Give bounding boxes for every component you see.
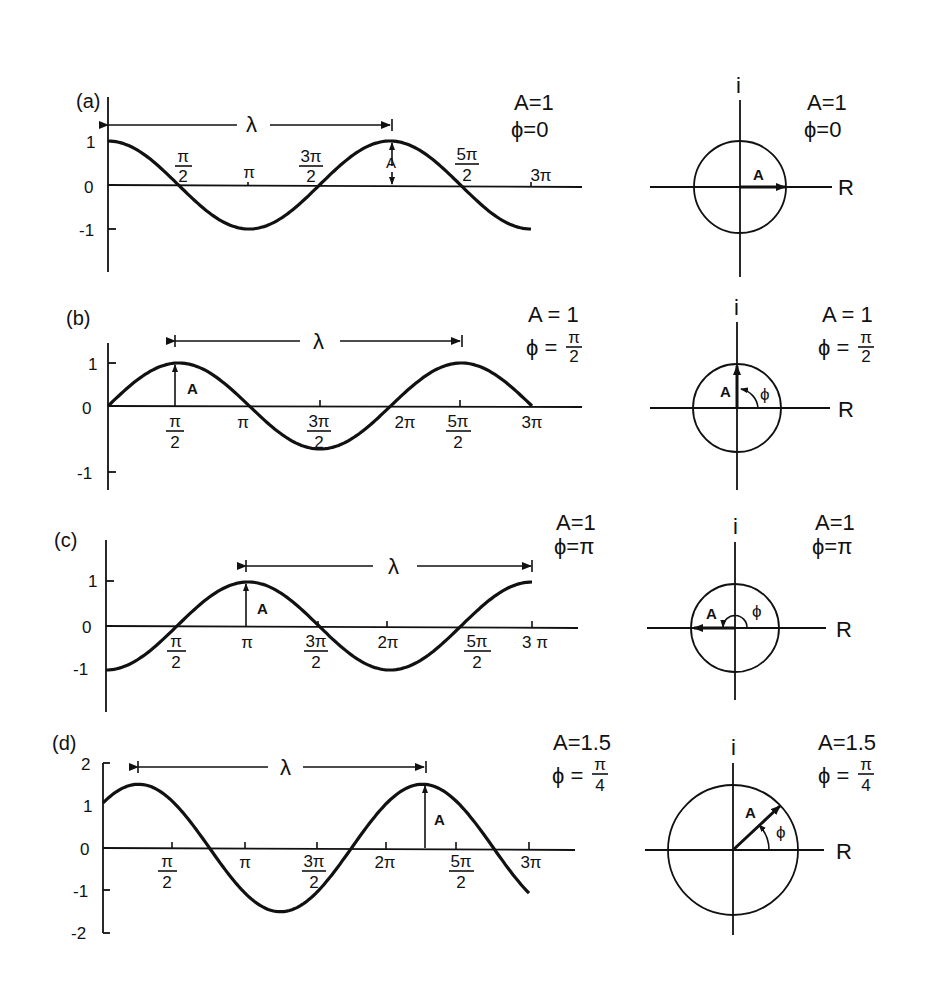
x-tick-label: 2π	[377, 633, 398, 652]
svg-text:π: π	[177, 147, 189, 166]
x-tick-label: 3π	[520, 853, 541, 872]
wave-plot: 1 0 -1 π 2 π 3π 2 2π 5π 2 3 π	[73, 510, 596, 712]
phase-value: ϕ=0	[511, 117, 548, 142]
x-tick-label: 3π 2	[299, 147, 323, 186]
phasor-diagram: A ϕ R i A=1.5 ϕ = π 4	[645, 730, 876, 935]
wavelength-symbol: λ	[246, 112, 257, 137]
amplitude-marker: A	[257, 600, 268, 617]
y-tick-label: 1	[86, 133, 95, 152]
y-tick-label: 0	[84, 178, 93, 197]
svg-text:3π: 3π	[305, 632, 326, 651]
real-axis-label: R	[836, 617, 852, 642]
y-tick-label: 0	[82, 399, 91, 418]
imaginary-axis-label: i	[731, 735, 736, 760]
wave-phasor-figure: (a) 1 0 -1 π 2 π 3π 2 5π 2	[0, 0, 933, 995]
panel-a: (a) 1 0 -1 π 2 π 3π 2 5π 2	[76, 73, 854, 277]
real-axis-label: R	[838, 397, 854, 422]
svg-text:π: π	[860, 328, 872, 347]
phase-angle-arc	[741, 389, 758, 408]
x-tick-label: 5π 2	[464, 632, 491, 672]
y-tick-label: 1	[88, 355, 97, 374]
phasor-amplitude: A = 1	[822, 302, 873, 327]
real-axis-label: R	[838, 175, 854, 200]
svg-text:2: 2	[456, 873, 465, 892]
svg-text:π: π	[860, 755, 872, 774]
svg-text:π: π	[568, 328, 580, 347]
x-tick-label: 3π 2	[307, 412, 331, 452]
phasor-vector-label: A	[753, 166, 764, 183]
x-tick-label: π 2	[158, 852, 177, 892]
svg-text:2: 2	[861, 347, 870, 366]
phasor-vector-label: A	[745, 804, 756, 821]
svg-text:2: 2	[162, 873, 171, 892]
svg-text:5π: 5π	[447, 412, 468, 431]
phase-value: ϕ = π 4	[552, 755, 608, 795]
svg-text:5π: 5π	[466, 632, 487, 651]
svg-text:2: 2	[462, 166, 471, 185]
panel-label: (d)	[52, 732, 76, 754]
phasor-diagram: A ϕ R i A = 1 ϕ = π 2	[650, 295, 874, 490]
phase-value: ϕ=π	[554, 534, 594, 559]
amplitude-value: A=1	[556, 510, 596, 535]
x-tick-label: π 2	[175, 147, 192, 186]
x-tick-label: π 2	[166, 412, 184, 452]
panel-label: (a)	[76, 90, 100, 112]
x-tick-label: π	[239, 853, 251, 872]
imaginary-axis-label: i	[734, 295, 739, 320]
phase-angle-arc	[759, 825, 769, 850]
y-tick-label: 0	[80, 840, 89, 859]
phasor-phase: ϕ = π 2	[818, 328, 874, 366]
svg-text:π: π	[161, 852, 173, 871]
y-tick-label: -1	[79, 221, 94, 240]
panel-d: (d) 2 1 0 -1 -2 π 2 π 3π	[52, 730, 876, 943]
x-tick-label: 2π	[394, 413, 415, 432]
x-tick-label: 5π 2	[446, 412, 471, 452]
wavelength-symbol: λ	[388, 554, 399, 579]
svg-text:ϕ =: ϕ =	[552, 763, 583, 788]
svg-text:5π: 5π	[456, 145, 477, 164]
svg-text:3π: 3π	[300, 147, 321, 166]
wavelength-symbol: λ	[280, 755, 291, 780]
y-tick-label: -1	[73, 660, 88, 679]
x-axis	[108, 406, 582, 407]
phasor-amplitude: A=1.5	[818, 730, 876, 755]
phasor-amplitude: A=1	[815, 510, 855, 535]
svg-text:2: 2	[306, 167, 315, 186]
amplitude-marker: A	[434, 811, 445, 828]
panel-label: (b)	[66, 307, 90, 329]
wave-plot: 2 1 0 -1 -2 π 2 π 3π 2 2π 5π	[71, 730, 611, 943]
x-tick-label: 3π	[530, 166, 551, 185]
x-tick-label: 3π 2	[304, 632, 328, 672]
svg-text:π: π	[169, 412, 181, 431]
wave-plot: 1 0 -1 π 2 π 3π 2 5π 2 3π	[79, 90, 582, 272]
imaginary-axis-label: i	[736, 73, 741, 98]
svg-text:3π: 3π	[303, 852, 324, 871]
svg-text:2: 2	[311, 653, 320, 672]
x-tick-label: π	[241, 633, 253, 652]
wave-plot: 1 0 -1 π 2 π 3π 2 2π 5π 2 3π	[77, 302, 582, 490]
y-tick-label: 1	[88, 572, 97, 591]
y-tick-label: -1	[77, 464, 92, 483]
svg-text:π: π	[594, 755, 606, 774]
phasor-amplitude: A=1	[807, 90, 847, 115]
x-tick-label: 5π 2	[449, 852, 474, 892]
panel-b: (b) 1 0 -1 π 2 π 3π 2 2π 5π	[66, 295, 874, 490]
x-tick-label: 2π	[374, 853, 395, 872]
svg-text:2: 2	[171, 653, 180, 672]
x-tick-label: 3 π	[522, 633, 548, 652]
amplitude-marker: A	[386, 154, 396, 171]
amplitude-value: A=1.5	[553, 730, 611, 755]
svg-text:2: 2	[170, 433, 179, 452]
y-tick-label: 0	[82, 618, 91, 637]
x-axis	[103, 848, 575, 850]
svg-text:π: π	[170, 632, 182, 651]
x-tick-label: π 2	[167, 632, 186, 672]
phase-angle-label: ϕ	[752, 602, 762, 621]
y-tick-label: 2	[81, 755, 90, 774]
svg-text:2: 2	[569, 347, 578, 366]
amplitude-value: A=1	[514, 90, 554, 115]
phasor-phase: ϕ=0	[804, 117, 841, 142]
amplitude-value: A = 1	[528, 302, 579, 327]
x-tick-label: π	[237, 413, 249, 432]
phase-angle-label: ϕ	[776, 823, 786, 842]
